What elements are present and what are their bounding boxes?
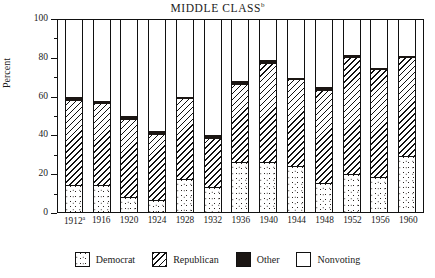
bar-segment-republican — [371, 70, 387, 178]
stacked-bar[interactable] — [370, 20, 388, 212]
bar-segment-republican — [316, 91, 332, 183]
y-axis: 020406080100 — [0, 19, 57, 213]
bar-segment-nonvoting — [371, 20, 387, 68]
x-axis-tick-label: 1944 — [287, 215, 305, 225]
bar-segment-nonvoting — [399, 20, 415, 56]
chart-title: MIDDLE CLASSb — [0, 1, 435, 14]
bar-segment-nonvoting — [288, 20, 304, 78]
x-axis-tick-label: 1928 — [176, 215, 194, 225]
republican-swatch-icon — [152, 252, 167, 267]
bar-segment-nonvoting — [260, 20, 276, 60]
bar-segment-nonvoting — [232, 20, 248, 81]
bar-segment-democrat — [149, 200, 165, 212]
bar-segment-republican — [232, 85, 248, 162]
x-axis-tick-label: 1936 — [231, 215, 249, 225]
other-swatch-icon — [236, 252, 251, 267]
bar-segment-democrat — [121, 197, 137, 212]
y-axis-tick-label: 20 — [39, 169, 49, 179]
x-axis-tick-label: 1920 — [120, 215, 138, 225]
bar-segment-republican — [66, 101, 82, 185]
bar-segment-nonvoting — [94, 20, 110, 101]
bar-segment-nonvoting — [316, 20, 332, 87]
bar-segment-democrat — [288, 166, 304, 212]
y-axis-tick-label: 0 — [43, 208, 48, 218]
stacked-bar[interactable] — [120, 20, 138, 212]
legend-item[interactable]: Democrat — [75, 252, 135, 267]
stacked-bar[interactable] — [259, 20, 277, 212]
x-axis-tick-label: 1948 — [315, 215, 333, 225]
x-axis-tick-superscript: a — [83, 215, 86, 221]
chart-title-superscript: b — [261, 1, 265, 9]
bar-segment-republican — [288, 80, 304, 166]
legend-label: Republican — [173, 254, 219, 265]
bar-segment-republican — [344, 58, 360, 173]
bar-segment-republican — [149, 135, 165, 200]
stacked-bar[interactable] — [398, 20, 416, 212]
x-axis-tick-label: 1960 — [399, 215, 417, 225]
bar-segment-democrat — [232, 162, 248, 212]
legend-label: Democrat — [96, 254, 135, 265]
y-axis-tick-label: 60 — [39, 92, 49, 102]
bar-segment-republican — [121, 120, 137, 197]
y-axis-tick-label: 100 — [34, 14, 48, 24]
bar-segment-democrat — [66, 185, 82, 212]
stacked-bar[interactable] — [315, 20, 333, 212]
stacked-bar[interactable] — [148, 20, 166, 212]
bar-segment-nonvoting — [205, 20, 221, 135]
legend-item[interactable]: Nonvoting — [296, 252, 360, 267]
chart-title-text: MIDDLE CLASS — [170, 2, 261, 14]
chart-figure: MIDDLE CLASSb Percent 020406080100 1912a… — [0, 0, 435, 278]
x-axis-tick-label: 1912a — [64, 215, 82, 226]
x-axis-tick-label: 1952 — [343, 215, 361, 225]
bar-segment-nonvoting — [177, 20, 193, 97]
stacked-bar[interactable] — [93, 20, 111, 212]
legend-label: Nonvoting — [317, 254, 360, 265]
bar-segment-democrat — [205, 187, 221, 212]
chart-legend: DemocratRepublicanOtherNonvoting — [0, 252, 435, 267]
bar-segment-democrat — [371, 177, 387, 212]
bar-segment-democrat — [344, 174, 360, 212]
stacked-bar[interactable] — [176, 20, 194, 212]
bar-segment-democrat — [94, 185, 110, 212]
bar-segment-nonvoting — [149, 20, 165, 131]
bar-segment-nonvoting — [121, 20, 137, 116]
stacked-bar[interactable] — [231, 20, 249, 212]
nonvoting-swatch-icon — [296, 252, 311, 267]
stacked-bar[interactable] — [343, 20, 361, 212]
x-axis: 1912a19161920192419281932193619401944194… — [57, 215, 424, 231]
bar-segment-republican — [260, 64, 276, 162]
x-axis-tick-label: 1940 — [259, 215, 277, 225]
y-axis-tick-label: 80 — [39, 53, 49, 63]
legend-item[interactable]: Other — [236, 252, 280, 267]
bar-segment-democrat — [177, 179, 193, 212]
x-axis-tick-label: 1924 — [148, 215, 166, 225]
bar-segment-democrat — [399, 156, 415, 212]
bar-segment-nonvoting — [344, 20, 360, 55]
legend-item[interactable]: Republican — [152, 252, 219, 267]
bar-segment-republican — [205, 139, 221, 187]
x-axis-tick-label: 1916 — [92, 215, 110, 225]
legend-label: Other — [257, 254, 280, 265]
bar-segment-republican — [94, 104, 110, 185]
stacked-bar[interactable] — [65, 20, 83, 212]
y-axis-tick-label: 40 — [39, 131, 49, 141]
stacked-bar[interactable] — [287, 20, 305, 212]
x-axis-tick-label: 1932 — [204, 215, 222, 225]
stacked-bar[interactable] — [204, 20, 222, 212]
bar-segment-democrat — [316, 183, 332, 212]
bar-segment-democrat — [260, 162, 276, 212]
bar-segment-republican — [177, 99, 193, 180]
democrat-swatch-icon — [75, 252, 90, 267]
y-axis-tick — [51, 213, 57, 214]
bar-segment-nonvoting — [66, 20, 82, 97]
bar-series-group — [58, 20, 423, 212]
plot-area — [57, 19, 424, 213]
x-axis-tick-label: 1956 — [371, 215, 389, 225]
bar-segment-republican — [399, 58, 415, 156]
